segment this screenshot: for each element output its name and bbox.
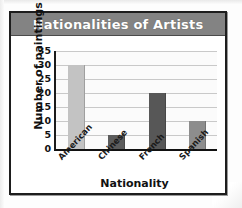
y-tick-label: 25	[33, 74, 51, 84]
y-tick-label: 10	[33, 116, 51, 126]
y-tick-label: 30	[33, 60, 51, 70]
scan-edge-left	[0, 0, 4, 208]
x-axis-title: Nationality	[54, 177, 215, 190]
bar-chart-figure: Nationalities of Artists Number of paint…	[9, 11, 227, 195]
y-tick-label: 5	[33, 130, 51, 140]
screenshot-root: Nationalities of Artists Number of paint…	[0, 0, 242, 208]
y-axis-tick-labels: 05101520253035	[33, 51, 51, 149]
y-tick-label: 35	[33, 46, 51, 56]
y-tick-label: 0	[33, 144, 51, 154]
y-tick-label: 20	[33, 88, 51, 98]
chart-title: Nationalities of Artists	[33, 17, 204, 32]
y-tick-label: 15	[33, 102, 51, 112]
chart-plot-region: Number of paintings 05101520253035 Ameri…	[11, 37, 225, 193]
